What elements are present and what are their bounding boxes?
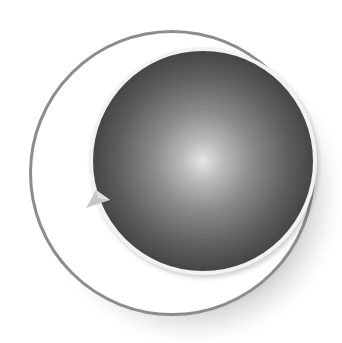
sphere-icon: [93, 51, 313, 271]
arrow-pointer-icon: [84, 186, 114, 210]
sphere-ring-illustration: [0, 0, 342, 343]
